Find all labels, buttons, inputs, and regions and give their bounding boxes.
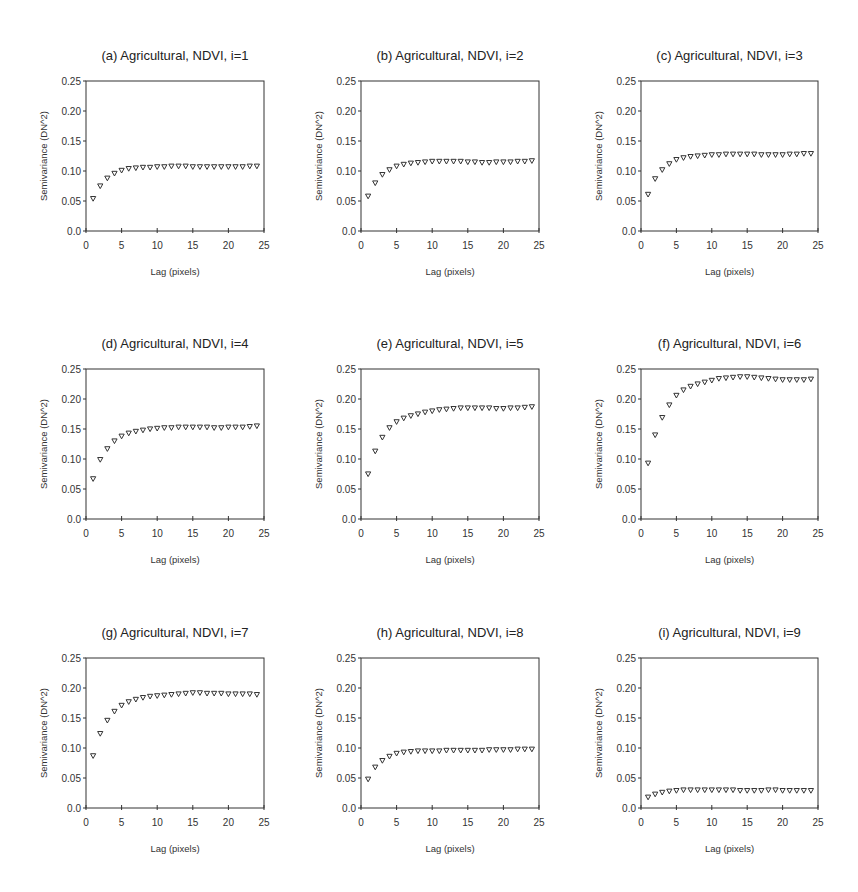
data-point-marker [254, 424, 259, 429]
x-tick-label: 5 [674, 240, 680, 251]
data-point-marker [394, 420, 399, 425]
data-point-marker [380, 173, 385, 178]
x-tick-label: 25 [258, 528, 270, 539]
data-point-marker [479, 161, 484, 166]
y-tick-label: 0.20 [337, 106, 357, 117]
y-tick-label: 0.10 [337, 743, 357, 754]
data-point-marker [219, 691, 224, 696]
y-tick-label: 0.05 [617, 773, 637, 784]
y-tick-label: 0.25 [337, 364, 357, 375]
data-point-marker [730, 788, 735, 793]
data-point-marker [162, 165, 167, 170]
y-tick-label: 0.10 [337, 166, 357, 177]
data-point-marker [501, 407, 506, 412]
y-tick-label: 0.05 [62, 196, 82, 207]
chart-panel-d: (d) Agricultural, NDVI, i=40.00.050.100.… [0, 324, 286, 614]
data-point-marker [197, 691, 202, 696]
data-point-marker [112, 439, 117, 444]
y-axis-label: Semivariance (DN^2) [38, 111, 49, 201]
data-point-marker [688, 155, 693, 160]
y-tick-label: 0.05 [337, 196, 357, 207]
data-point-marker [716, 788, 721, 793]
data-point-marker [745, 789, 750, 794]
data-point-marker [716, 377, 721, 382]
data-point-marker [162, 426, 167, 431]
y-tick-label: 0.15 [337, 424, 357, 435]
y-tick-label: 0.10 [62, 454, 82, 465]
x-tick-label: 15 [742, 817, 754, 828]
data-point-marker [162, 693, 167, 698]
data-point-marker [522, 405, 527, 410]
x-tick-label: 0 [638, 528, 644, 539]
y-tick-label: 0.0 [342, 226, 356, 237]
data-point-marker [91, 477, 96, 482]
data-point-marker [183, 425, 188, 430]
data-point-marker [140, 165, 145, 170]
x-tick-label: 15 [462, 528, 474, 539]
data-point-marker [702, 153, 707, 158]
data-point-marker [752, 375, 757, 380]
chart-panel-e: (e) Agricultural, NDVI, i=50.00.050.100.… [286, 324, 572, 614]
y-tick-label: 0.25 [337, 76, 357, 87]
y-tick-label: 0.05 [617, 196, 637, 207]
data-point-marker [709, 153, 714, 158]
x-axis-label: Lag (pixels) [150, 843, 199, 854]
data-point-marker [801, 378, 806, 383]
y-tick-label: 0.0 [342, 514, 356, 525]
data-point-marker [465, 748, 470, 753]
plot-frame [361, 658, 539, 808]
y-tick-label: 0.25 [62, 76, 82, 87]
data-point-marker [645, 461, 650, 466]
data-point-marker [119, 434, 124, 439]
x-tick-label: 15 [187, 817, 199, 828]
data-point-marker [373, 765, 378, 770]
y-tick-label: 0.25 [62, 653, 82, 664]
data-point-marker [401, 416, 406, 421]
x-tick-label: 0 [638, 240, 644, 251]
data-point-marker [808, 789, 813, 794]
data-point-marker [472, 160, 477, 165]
data-point-marker [702, 380, 707, 385]
data-point-marker [91, 197, 96, 202]
data-point-marker [702, 788, 707, 793]
x-tick-label: 10 [706, 528, 718, 539]
data-point-marker [169, 426, 174, 431]
x-tick-label: 25 [533, 817, 545, 828]
data-point-marker [98, 732, 103, 737]
data-point-marker [529, 405, 534, 410]
y-tick-label: 0.0 [622, 803, 636, 814]
data-point-marker [247, 164, 252, 169]
data-point-marker [674, 158, 679, 163]
data-point-marker [366, 472, 371, 477]
chart-panel-h: (h) Agricultural, NDVI, i=80.00.050.100.… [286, 613, 572, 892]
data-point-marker [212, 691, 217, 696]
x-tick-label: 10 [706, 240, 718, 251]
plot-frame [86, 369, 264, 519]
y-tick-label: 0.10 [617, 454, 637, 465]
data-point-marker [716, 153, 721, 158]
x-tick-label: 15 [742, 528, 754, 539]
data-point-marker [254, 693, 259, 698]
plot-frame [86, 658, 264, 808]
x-tick-label: 25 [258, 817, 270, 828]
data-point-marker [219, 165, 224, 170]
x-tick-label: 0 [358, 528, 364, 539]
data-point-marker [387, 426, 392, 431]
x-tick-label: 0 [358, 240, 364, 251]
y-tick-label: 0.15 [337, 713, 357, 724]
data-point-marker [155, 694, 160, 699]
x-tick-label: 15 [462, 817, 474, 828]
data-point-marker [508, 160, 513, 165]
y-tick-label: 0.15 [62, 136, 82, 147]
data-point-marker [140, 428, 145, 433]
data-point-marker [738, 375, 743, 380]
y-tick-label: 0.20 [62, 394, 82, 405]
data-point-marker [451, 159, 456, 164]
y-tick-label: 0.05 [62, 773, 82, 784]
data-point-marker [681, 156, 686, 161]
data-point-marker [645, 795, 650, 800]
x-axis-label: Lag (pixels) [705, 843, 754, 854]
x-tick-label: 20 [223, 817, 235, 828]
data-point-marker [126, 700, 131, 705]
data-point-marker [759, 376, 764, 381]
